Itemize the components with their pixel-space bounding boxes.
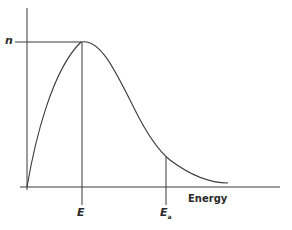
x-axis-label: Energy	[188, 194, 227, 204]
activation-energy-label: Ea	[160, 207, 172, 218]
activation-energy-symbol: E	[160, 206, 168, 219]
distribution-curve	[27, 42, 228, 187]
activation-energy-subscript: a	[168, 213, 172, 220]
peak-energy-label: E	[77, 207, 85, 218]
energy-distribution-diagram: n E Ea Energy	[0, 0, 292, 230]
diagram-canvas	[0, 0, 292, 230]
y-axis-label: n	[5, 35, 13, 46]
